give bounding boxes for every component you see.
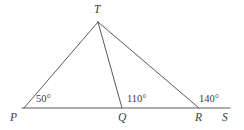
angle-label-Q: 110° (127, 94, 147, 105)
point-label-Q: Q (118, 112, 126, 124)
point-label-P: P (10, 112, 17, 124)
geometry-figure: T P Q R S 50° 110° 140° (0, 0, 244, 130)
angle-label-R: 140° (199, 94, 219, 105)
point-label-S: S (222, 112, 228, 124)
segment-side-TR (98, 22, 199, 108)
angle-label-P: 50° (36, 94, 51, 105)
point-label-R: R (195, 112, 202, 124)
segment-cevian-TQ (98, 22, 122, 108)
point-label-T: T (94, 4, 100, 16)
